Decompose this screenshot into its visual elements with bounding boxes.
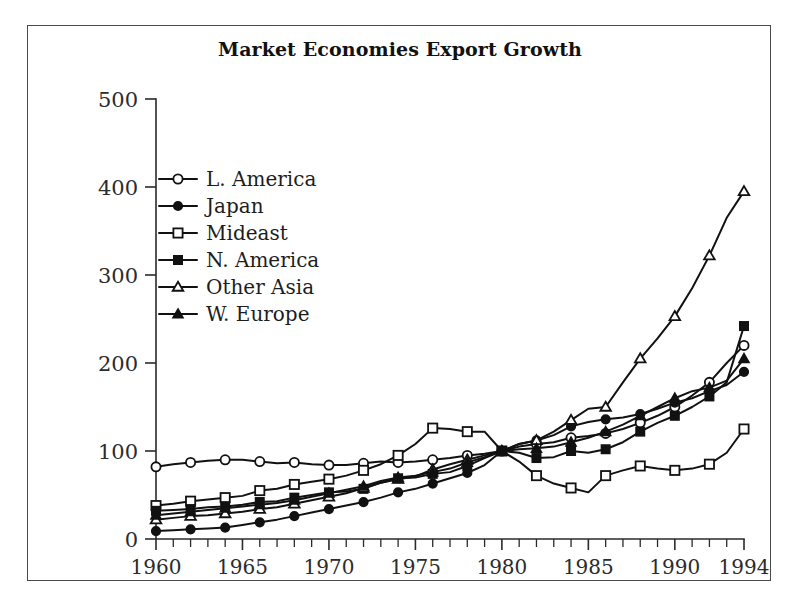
x-tick-label: 1975	[390, 555, 441, 579]
marker-open-circle	[290, 458, 299, 467]
legend-item-w-europe[interactable]: W. Europe	[157, 300, 367, 327]
series-line	[156, 326, 744, 511]
marker-filled-circle	[290, 512, 299, 521]
series-w-europe	[151, 354, 749, 519]
filled-circle-icon	[157, 196, 199, 216]
line-chart-plot: 0100200300400500196019651970197519801985…	[28, 26, 772, 582]
marker-open-triangle	[739, 186, 750, 195]
y-tick-label: 100	[98, 440, 138, 464]
marker-filled-square	[532, 454, 540, 462]
marker-open-square	[394, 451, 403, 460]
legend-item-n-america[interactable]: N. America	[157, 246, 367, 273]
chart-legend: L. AmericaJapanMideastN. AmericaOther As…	[157, 165, 367, 327]
legend-item-other-asia[interactable]: Other Asia	[157, 273, 367, 300]
marker-open-circle	[151, 462, 160, 471]
chart-frame: Market Economies Export Growth 010020030…	[27, 25, 771, 581]
x-tick-label: 1985	[563, 555, 614, 579]
marker-open-square	[173, 228, 182, 237]
marker-open-square	[601, 471, 610, 480]
marker-filled-square	[705, 392, 713, 400]
marker-open-circle	[739, 341, 748, 350]
marker-filled-circle	[601, 415, 610, 424]
open-circle-icon	[157, 169, 199, 189]
marker-open-square	[324, 475, 333, 484]
marker-open-square	[705, 460, 714, 469]
series-line	[156, 359, 744, 516]
marker-filled-circle	[221, 523, 230, 532]
series-line	[156, 345, 744, 466]
marker-filled-circle	[394, 488, 403, 497]
series-mideast	[151, 424, 748, 511]
marker-open-square	[359, 466, 368, 475]
marker-filled-circle	[152, 527, 161, 536]
marker-filled-circle	[255, 518, 264, 527]
marker-open-square	[566, 483, 575, 492]
y-tick-label: 300	[98, 264, 138, 288]
marker-open-square	[255, 486, 264, 495]
marker-filled-circle	[428, 479, 437, 488]
x-tick-label: 1990	[649, 555, 700, 579]
legend-item-label: L. America	[206, 169, 316, 189]
marker-open-square	[739, 424, 748, 433]
marker-open-circle	[186, 458, 195, 467]
marker-filled-square	[636, 427, 644, 435]
x-tick-label: 1980	[476, 555, 527, 579]
legend-item-japan[interactable]: Japan	[157, 192, 367, 219]
marker-filled-square	[601, 445, 609, 453]
marker-filled-circle	[174, 201, 183, 210]
marker-open-square	[221, 493, 230, 502]
y-tick-label: 400	[98, 176, 138, 200]
axes-group: 0100200300400500196019651970197519801985…	[98, 88, 770, 580]
marker-open-square	[532, 471, 541, 480]
y-tick-label: 500	[98, 88, 138, 112]
series-line	[156, 428, 744, 505]
legend-item-label: Mideast	[206, 223, 288, 243]
marker-filled-circle	[186, 525, 195, 534]
legend-item-label: W. Europe	[206, 304, 310, 324]
marker-open-triangle	[566, 415, 577, 424]
legend-item-mideast[interactable]: Mideast	[157, 219, 367, 246]
x-tick-label: 1994	[719, 555, 770, 579]
marker-open-circle	[173, 174, 182, 183]
marker-open-square	[428, 424, 437, 433]
series-japan	[152, 368, 749, 536]
legend-item-l-america[interactable]: L. America	[157, 165, 367, 192]
marker-filled-triangle	[739, 354, 749, 363]
marker-open-circle	[255, 457, 264, 466]
marker-open-square	[290, 480, 299, 489]
marker-filled-square	[174, 255, 182, 263]
marker-filled-circle	[740, 368, 749, 377]
x-tick-label: 1965	[217, 555, 268, 579]
marker-open-square	[636, 461, 645, 470]
figure-root: Market Economies Export Growth 010020030…	[0, 0, 791, 612]
open-square-icon	[157, 223, 199, 243]
marker-open-triangle	[670, 311, 681, 320]
legend-item-label: Japan	[206, 196, 264, 216]
legend-item-label: Other Asia	[206, 277, 314, 297]
marker-open-triangle	[704, 250, 715, 259]
marker-open-square	[463, 427, 472, 436]
marker-filled-circle	[325, 505, 334, 514]
filled-triangle-icon	[157, 304, 199, 324]
marker-open-circle	[324, 460, 333, 469]
marker-open-square	[670, 466, 679, 475]
x-tick-label: 1970	[303, 555, 354, 579]
y-tick-label: 200	[98, 352, 138, 376]
marker-open-circle	[221, 455, 230, 464]
series-n-america	[152, 322, 748, 515]
open-triangle-icon	[157, 277, 199, 297]
marker-filled-square	[567, 447, 575, 455]
marker-filled-square	[740, 322, 748, 330]
marker-filled-square	[671, 412, 679, 420]
filled-square-icon	[157, 250, 199, 270]
marker-filled-circle	[359, 498, 368, 507]
x-tick-label: 1960	[131, 555, 182, 579]
legend-item-label: N. America	[206, 250, 319, 270]
y-tick-label: 0	[125, 528, 138, 552]
